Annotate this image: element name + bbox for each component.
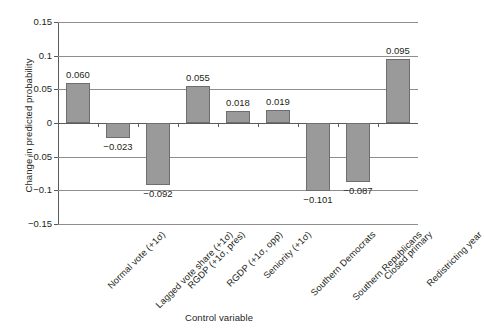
x-axis-category-label: Lagged vote share (+1σ) <box>155 230 235 310</box>
x-tick-mark <box>298 123 299 127</box>
y-tick-label: 0 <box>47 118 52 128</box>
x-tick-mark <box>218 123 219 127</box>
bar-value-label: −0.087 <box>328 186 388 196</box>
bar <box>186 86 210 123</box>
bar-value-label: −0.101 <box>288 195 348 205</box>
bar-value-label: 0.019 <box>248 97 308 107</box>
bar <box>146 123 170 185</box>
bar <box>106 123 130 138</box>
x-axis-category-label: Seniority (+1σ) <box>262 230 313 281</box>
x-axis-category-label: Southern Democrats <box>310 230 378 298</box>
y-tick-label: 0.05 <box>34 85 53 95</box>
y-tick-label: −0.15 <box>28 219 52 229</box>
y-tick-label: −0.1 <box>33 186 52 196</box>
gridline-neg0p15 <box>58 224 418 225</box>
x-axis-title: Control variable <box>0 312 438 323</box>
x-axis-category-label: RGDP (+1σ, pres) <box>186 230 247 291</box>
x-tick-mark <box>258 123 259 127</box>
bar <box>386 59 410 123</box>
bar-value-label: 0.055 <box>168 73 228 83</box>
x-tick-mark <box>178 123 179 127</box>
bars-group: 0.060−0.023−0.0920.0550.0180.019−0.101−0… <box>58 22 418 224</box>
y-tick-label: 0.15 <box>34 17 53 27</box>
x-axis-category-label: Southern Republicans <box>351 230 424 303</box>
x-tick-mark <box>98 123 99 127</box>
y-axis-title: Change in predicted probability <box>23 26 34 226</box>
x-tick-mark <box>138 123 139 127</box>
bar-value-label: 0.095 <box>368 46 428 56</box>
bar-value-label: −0.092 <box>128 189 188 199</box>
y-tick-label: 0.1 <box>39 51 52 61</box>
x-axis-category-label: Redistricting year <box>426 230 484 289</box>
x-tick-mark <box>338 123 339 127</box>
bar-value-label: −0.023 <box>88 142 148 152</box>
bar <box>226 111 250 123</box>
bar <box>306 123 330 191</box>
x-axis-category-label: Normal vote (+1σ) <box>107 230 168 291</box>
x-tick-mark <box>378 123 379 127</box>
bar <box>66 83 90 123</box>
bar-value-label: 0.060 <box>48 70 108 80</box>
y-tick-label: −0.05 <box>28 152 52 162</box>
x-axis-category-label: Closed primary <box>383 230 435 282</box>
bar <box>266 110 290 123</box>
plot-area: 0.150.10.050−0.05−0.1−0.15 0.060−0.023−0… <box>58 22 418 224</box>
x-axis-category-label: RGDP (+1σ, opp) <box>226 230 285 289</box>
y-tick-mark <box>54 224 58 225</box>
bar <box>346 123 370 182</box>
